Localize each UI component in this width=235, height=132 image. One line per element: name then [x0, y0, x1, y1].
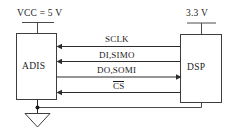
cs-arrowhead [57, 90, 63, 96]
di-simo-arrowhead [57, 59, 63, 65]
cs-signal-text: CS [113, 81, 124, 91]
sclk-signal-label: SCLK [105, 35, 129, 44]
adis-block-label: ADIS [22, 62, 45, 72]
ground-symbol-icon [25, 114, 50, 128]
di-simo-signal-label: DI,SIMO [99, 51, 135, 60]
sclk-arrowhead [57, 44, 63, 50]
do-somi-signal-label: DO,SOMI [97, 66, 136, 75]
vdd-supply-label: 3.3 V [186, 9, 208, 19]
ground-junction-dot [36, 106, 40, 110]
dsp-block-label: DSP [187, 63, 205, 73]
spi-interface-diagram: VCC = 5 V 3.3 V ADIS DSP SCLK DI,SIMO DO… [0, 0, 235, 132]
cs-signal-label: CS [113, 81, 124, 91]
vcc-supply-label: VCC = 5 V [17, 9, 62, 19]
